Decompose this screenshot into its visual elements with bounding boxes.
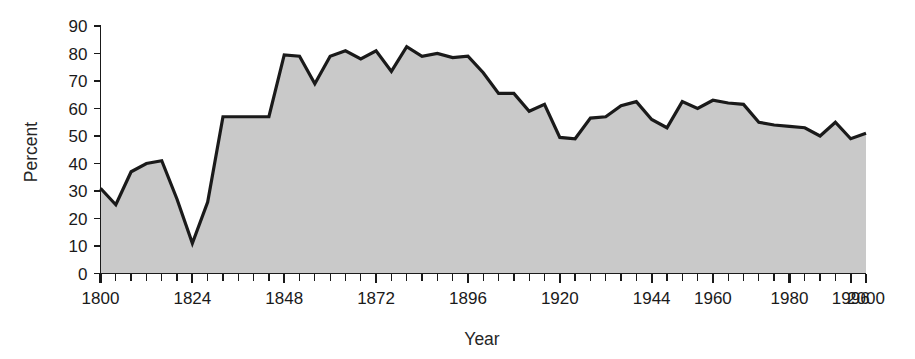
chart-figure: Percent Year 0102030405060708090 1800182… bbox=[0, 0, 915, 359]
y-tick-label: 30 bbox=[69, 182, 88, 201]
y-tick-label: 0 bbox=[78, 265, 87, 284]
x-tick-label: 1800 bbox=[82, 289, 120, 308]
x-tick-label: 2000 bbox=[847, 289, 885, 308]
x-tick-label: 1872 bbox=[357, 289, 395, 308]
y-tick-label: 10 bbox=[69, 237, 88, 256]
x-tick-label: 1980 bbox=[771, 289, 809, 308]
y-axis-title: Percent bbox=[21, 122, 41, 182]
y-tick-label: 20 bbox=[69, 210, 88, 229]
x-tick-label: 1824 bbox=[173, 289, 211, 308]
x-tick-label: 1920 bbox=[541, 289, 579, 308]
x-tick-label: 1960 bbox=[694, 289, 732, 308]
area-chart: Percent Year 0102030405060708090 1800182… bbox=[0, 0, 915, 359]
y-tick-label: 80 bbox=[69, 45, 88, 64]
y-tick-label: 50 bbox=[69, 127, 88, 146]
x-axis-title: Year bbox=[464, 329, 500, 349]
y-tick-label: 40 bbox=[69, 155, 88, 174]
x-tick-label: 1896 bbox=[449, 289, 487, 308]
y-tick-label: 90 bbox=[69, 17, 88, 36]
y-tick-label: 60 bbox=[69, 100, 88, 119]
x-tick-label: 1848 bbox=[265, 289, 303, 308]
y-tick-label: 70 bbox=[69, 72, 88, 91]
x-tick-label: 1944 bbox=[633, 289, 671, 308]
